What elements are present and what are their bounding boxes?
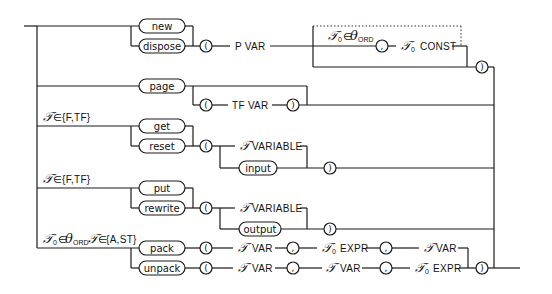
rparen-glyph: ) [328, 163, 332, 173]
lparen-glyph: ( [204, 203, 208, 213]
keyword-dispose-label: dispose [143, 41, 181, 52]
const-label: CONST [420, 41, 457, 52]
tau-symbol: 𝒯 [238, 240, 252, 255]
rparen-glyph: ) [291, 100, 295, 110]
keyword-unpack-label: unpack [144, 263, 181, 274]
keyword-rewrite-label: rewrite [144, 203, 179, 214]
keyword-input-label: input [245, 163, 271, 174]
variable-label: VARIABLE [252, 141, 303, 152]
expr-label: EXPR [340, 243, 368, 254]
syntax-diagram: new dispose ( P VAR 𝒯 0 ∈ θ ORD , 𝒯 0 CO… [0, 0, 552, 294]
keyword-reset-label: reset [149, 141, 174, 152]
sub0: 0 [425, 268, 429, 275]
lparen-glyph: ( [204, 100, 208, 110]
rparen-glyph: ) [480, 62, 484, 72]
lparen-glyph: ( [204, 41, 208, 51]
keyword-output-label: output [244, 224, 277, 235]
condition-f-tf: {F,TF} [62, 112, 91, 123]
left-rail [24, 26, 37, 248]
branch-put-rewrite: 𝒯 ∈ {F,TF} put rewrite ( 𝒯 VARIABLE outp… [37, 171, 494, 236]
lparen-glyph: ( [204, 263, 208, 273]
rparen-glyph: ) [328, 224, 332, 234]
var-label: VAR [252, 243, 273, 254]
theta-symbol: θ [65, 231, 73, 246]
branch-pack-unpack: 𝒯 0 ∈ θ ORD 𝒯 ∈ {A,ST} pack unpack ( 𝒯 V… [37, 231, 494, 275]
var-label: VAR [252, 263, 273, 274]
in-symbol: ∈ [53, 112, 62, 123]
comma-glyph: , [385, 263, 388, 273]
keyword-pack-label: pack [150, 243, 174, 254]
comma-glyph: , [385, 243, 388, 253]
condition-a-st: {A,ST} [106, 234, 137, 245]
ord-sub: ORD [358, 36, 374, 43]
p-var-label: P VAR [235, 41, 266, 52]
tf-var-label: TF VAR [232, 100, 269, 111]
tau-symbol: 𝒯 [326, 260, 340, 275]
branch-page: page ( TF VAR ) [37, 79, 494, 111]
sub0: 0 [332, 248, 336, 255]
variable-label: VARIABLE [252, 203, 303, 214]
keyword-new-label: new [152, 21, 173, 32]
tau-symbol: 𝒯 [238, 260, 252, 275]
keyword-put-label: put [154, 183, 171, 194]
expr-label: EXPR [433, 263, 461, 274]
rparen-glyph: ) [480, 263, 484, 273]
comma-glyph: , [292, 263, 295, 273]
right-rail [494, 67, 520, 268]
theta-symbol: θ [350, 28, 358, 43]
condition-f-tf: {F,TF} [62, 174, 91, 185]
in-symbol: ∈ [53, 174, 62, 185]
ord-sub: ORD [73, 239, 89, 246]
sub0: 0 [53, 239, 57, 246]
branch-new-dispose: new dispose ( P VAR 𝒯 0 ∈ θ ORD , 𝒯 0 CO… [37, 19, 494, 73]
branch-get-reset: 𝒯 ∈ {F,TF} get reset ( 𝒯 VARIABLE input … [37, 109, 494, 175]
comma-glyph: , [381, 41, 384, 51]
lparen-glyph: ( [204, 243, 208, 253]
keyword-get-label: get [154, 121, 171, 132]
var-label: VAR [436, 243, 457, 254]
lparen-glyph: ( [204, 141, 208, 151]
var-label: VAR [340, 263, 361, 274]
keyword-page-label: page [150, 81, 175, 92]
comma-glyph: , [292, 243, 295, 253]
sub0: 0 [411, 46, 415, 53]
sub0: 0 [338, 36, 342, 43]
